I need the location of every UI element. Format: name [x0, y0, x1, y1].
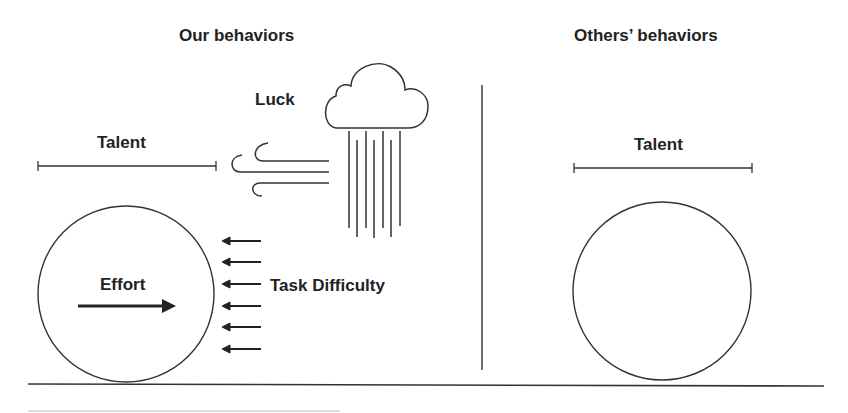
- difficulty-arrow-icon: [222, 237, 261, 353]
- ball-left: [38, 206, 214, 382]
- task-difficulty-label: Task Difficulty: [270, 277, 385, 294]
- talent-bracket-left: [38, 161, 216, 171]
- ground-line: [28, 384, 824, 386]
- attribution-diagram: Our behaviors Luck Talent Effort Task Di…: [0, 0, 848, 413]
- luck-label: Luck: [255, 91, 295, 108]
- talent-label-left: Talent: [97, 134, 146, 151]
- left-panel-title: Our behaviors: [179, 27, 294, 44]
- effort-arrow-icon: [78, 299, 176, 313]
- effort-label: Effort: [100, 276, 145, 293]
- talent-label-right: Talent: [634, 136, 683, 153]
- cloud-icon: [326, 64, 429, 128]
- talent-bracket-right: [574, 163, 752, 173]
- diagram-graphics: [0, 0, 848, 413]
- right-panel-title: Others’ behaviors: [574, 27, 718, 44]
- ball-right: [573, 202, 751, 380]
- rain-icon: [349, 131, 400, 238]
- wind-icon: [232, 143, 329, 196]
